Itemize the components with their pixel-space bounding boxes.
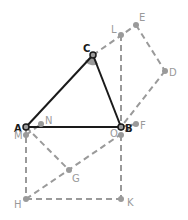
point-M: [23, 132, 29, 138]
label-F: F: [140, 120, 146, 131]
side-AC: [26, 55, 93, 127]
label-C: C: [83, 43, 90, 54]
point-L: [118, 32, 124, 38]
triangle-ABC: [26, 55, 121, 127]
label-H: H: [14, 199, 22, 210]
label-B: B: [125, 123, 133, 134]
point-D: [162, 68, 168, 74]
label-E: E: [139, 12, 145, 23]
label-O: O: [110, 128, 118, 139]
point-F: [133, 121, 139, 127]
label-K: K: [127, 197, 134, 208]
label-G: G: [72, 173, 80, 184]
construction-lines: [26, 25, 165, 199]
segment-DB: [121, 71, 165, 127]
point-C: [90, 52, 96, 58]
label-M: M: [14, 130, 23, 141]
diagram-svg: A B C L E D F O N M G H K: [0, 0, 188, 220]
point-A: [23, 124, 29, 130]
geometry-diagram: A B C L E D F O N M G H K: [0, 0, 188, 220]
label-N: N: [45, 115, 52, 126]
point-B: [118, 124, 124, 130]
point-K: [118, 196, 124, 202]
point-H: [23, 196, 29, 202]
label-L: L: [111, 24, 117, 35]
triangle-vertices: [23, 52, 124, 130]
point-O: [118, 132, 124, 138]
label-D: D: [169, 67, 177, 78]
construction-points: [23, 22, 168, 202]
segment-ED: [136, 25, 165, 71]
side-CB: [93, 55, 121, 127]
segment-AG: [26, 127, 69, 170]
point-N: [38, 121, 44, 127]
